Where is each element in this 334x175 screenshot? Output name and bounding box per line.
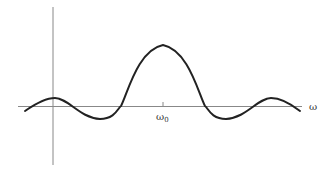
chart: ω ω0 bbox=[0, 0, 334, 175]
center-tick-label: ω0 bbox=[156, 111, 169, 124]
x-axis-label: ω bbox=[309, 101, 317, 112]
sinc-curve bbox=[25, 45, 300, 119]
